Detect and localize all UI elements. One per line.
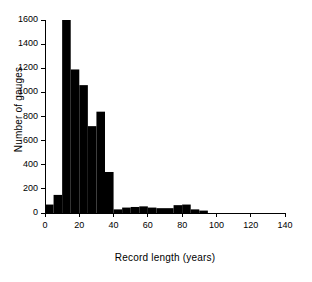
x-tick-label: 120 (236, 220, 266, 230)
y-tick-label: 1400 (0, 38, 38, 48)
histogram-figure: Number of gauges Record length (years) 0… (0, 0, 312, 282)
histogram-bar (191, 209, 200, 213)
y-tick-label: 1000 (0, 86, 38, 96)
y-tick-label: 200 (0, 183, 38, 193)
x-tick-label: 60 (133, 220, 163, 230)
x-tick-label: 40 (99, 220, 129, 230)
histogram-bar (45, 205, 54, 213)
histogram-bar (156, 208, 165, 213)
x-tick-label: 20 (64, 220, 94, 230)
histogram-bar (96, 112, 105, 213)
histogram-bar (88, 126, 97, 213)
y-tick-label: 800 (0, 111, 38, 121)
histogram-bar (182, 205, 191, 213)
histogram-bar (79, 85, 88, 213)
histogram-bar (174, 205, 183, 213)
y-tick-marks (41, 20, 45, 213)
histogram-bar (131, 207, 140, 213)
x-tick-label: 140 (270, 220, 300, 230)
x-tick-label: 80 (167, 220, 197, 230)
plot-canvas (0, 0, 312, 282)
histogram-bar (139, 206, 148, 213)
histogram-bar (54, 195, 63, 213)
histogram-bar (71, 69, 80, 213)
y-tick-label: 400 (0, 159, 38, 169)
x-tick-marks (45, 213, 285, 217)
x-tick-label: 0 (30, 220, 60, 230)
histogram-bar (165, 208, 174, 213)
x-tick-label: 100 (201, 220, 231, 230)
y-tick-label: 600 (0, 135, 38, 145)
y-tick-label: 1600 (0, 14, 38, 24)
y-tick-label: 0 (0, 207, 38, 217)
histogram-bar (148, 208, 157, 213)
y-tick-label: 1200 (0, 62, 38, 72)
histogram-bar (114, 209, 123, 213)
histogram-bar (122, 208, 131, 213)
bar-group (45, 20, 208, 213)
histogram-bar (105, 172, 114, 213)
histogram-bar (62, 20, 71, 213)
